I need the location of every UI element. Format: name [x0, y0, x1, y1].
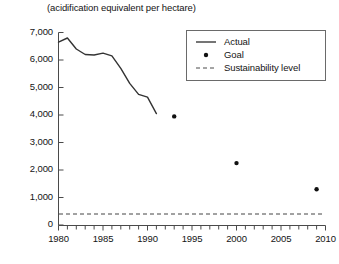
- x-tick-label-1990: 1990: [133, 233, 163, 244]
- legend-box: [187, 31, 326, 81]
- x-tick-label-2000: 2000: [222, 233, 252, 244]
- x-tick-label-1995: 1995: [177, 233, 207, 244]
- goal-point: [172, 114, 176, 118]
- y-tick-label-7000: 7,000: [6, 26, 53, 37]
- x-axis-minor-ticks: [59, 226, 326, 231]
- legend-label-goal: Goal: [224, 49, 244, 60]
- y-tick-label-5000: 5,000: [6, 81, 53, 92]
- y-axis-ticks: [59, 33, 64, 226]
- legend-label-sustainability: Sustainability level: [224, 62, 300, 73]
- y-tick-label-6000: 6,000: [6, 53, 53, 64]
- actual-series-line: [59, 38, 157, 114]
- legend-swatch-goal: [204, 53, 208, 57]
- legend-label-actual: Actual: [224, 36, 250, 47]
- y-tick-label-3000: 3,000: [6, 136, 53, 147]
- x-tick-label-1980: 1980: [44, 233, 74, 244]
- x-tick-label-2005: 2005: [266, 233, 296, 244]
- goal-point: [314, 187, 318, 191]
- x-tick-label-1985: 1985: [88, 233, 118, 244]
- goal-series-points: [172, 114, 319, 191]
- x-tick-label-2010: 2010: [311, 233, 339, 244]
- y-tick-label-0: 0: [6, 218, 53, 229]
- y-tick-label-2000: 2,000: [6, 163, 53, 174]
- y-tick-label-1000: 1,000: [6, 191, 53, 202]
- y-tick-label-4000: 4,000: [6, 108, 53, 119]
- goal-point: [234, 161, 238, 165]
- chart-figure: (acidification equivalent per hectare): [0, 0, 339, 264]
